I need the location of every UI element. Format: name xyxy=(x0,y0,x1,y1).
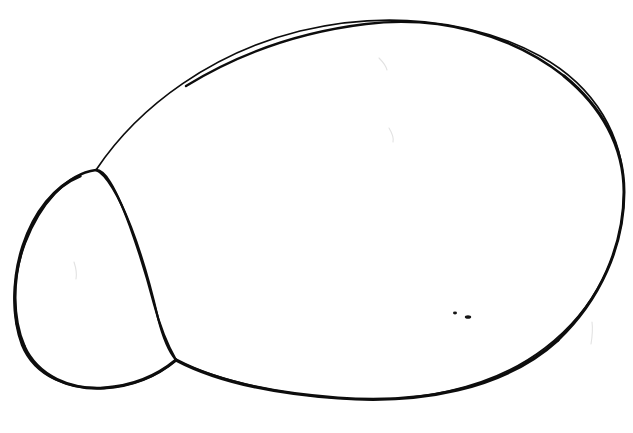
line-drawing-svg xyxy=(0,0,633,433)
paper-background xyxy=(0,0,633,433)
paper-speck-a xyxy=(453,312,457,315)
paper-speck-b xyxy=(465,315,471,319)
drawing-canvas: Line Drawing Black ink outline drawing o… xyxy=(0,0,633,433)
